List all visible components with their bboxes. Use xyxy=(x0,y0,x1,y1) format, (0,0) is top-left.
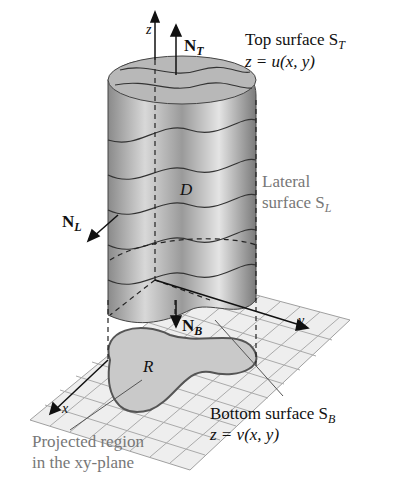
normal-top-label: NT xyxy=(184,36,204,61)
lateral-surface-label-line2: surface SL xyxy=(262,193,331,218)
normal-lateral-label: NL xyxy=(62,212,82,237)
solid-region-diagram xyxy=(0,0,398,497)
projected-region-label-line2: in the xy-plane xyxy=(32,453,134,472)
normal-bottom-label: NB xyxy=(182,316,202,341)
solid-D-label: D xyxy=(180,180,192,199)
y-axis-label: y xyxy=(298,311,304,330)
projected-region-label-line1: Projected region xyxy=(32,432,144,451)
x-axis-label: x xyxy=(62,399,68,418)
z-axis-label: z xyxy=(146,20,151,39)
region-R-label: R xyxy=(143,357,153,376)
bottom-surface-equation: z = v(x, y) xyxy=(210,425,279,444)
lateral-surface-label-line1: Lateral xyxy=(262,172,310,191)
top-surface-equation: z = u(x, y) xyxy=(245,52,315,71)
